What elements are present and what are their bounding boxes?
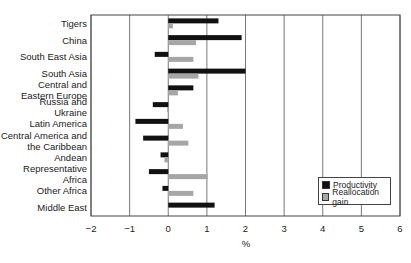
category-labels: TigersChinaSouth East AsiaSouth AsiaCent…: [0, 0, 87, 263]
category-label: Other Africa: [37, 185, 87, 196]
reallocation-bar: [168, 74, 198, 79]
productivity-bar: [143, 136, 168, 141]
reallocation-bar: [167, 107, 168, 112]
x-tick-label: 4: [320, 223, 325, 234]
productivity-bar: [168, 85, 193, 90]
category-label: South East Asia: [20, 51, 87, 62]
legend: Productivity Reallocation gain: [318, 177, 391, 205]
x-tick-label: 3: [281, 223, 286, 234]
reallocation-bar: [168, 23, 173, 28]
productivity-swatch: [322, 181, 330, 189]
x-axis-label: %: [242, 238, 250, 249]
x-tick-label: −1: [124, 223, 135, 234]
category-label: China: [62, 35, 87, 46]
legend-label: Reallocation gain: [332, 187, 390, 207]
x-tick-label: 6: [397, 223, 402, 234]
category-label: Latin America: [29, 118, 87, 129]
reallocation-bar: [168, 40, 196, 45]
category-label: Tigers: [61, 18, 87, 29]
reallocation-bar: [168, 57, 193, 62]
reallocation-bar: [164, 157, 168, 162]
category-label: RepresentativeAfrica: [23, 163, 87, 185]
x-tick-label: 2: [243, 223, 248, 234]
productivity-bar: [168, 18, 218, 23]
category-label: Middle East: [37, 202, 87, 213]
category-label: South Asia: [42, 68, 87, 79]
x-tick-label: 0: [166, 223, 171, 234]
productivity-bar: [153, 102, 168, 107]
reallocation-bar: [168, 124, 183, 129]
reallocation-bar: [168, 141, 188, 146]
productivity-bar: [168, 69, 245, 74]
productivity-bar: [168, 35, 241, 40]
productivity-bar: [162, 186, 168, 191]
category-label: Russia andUkraine: [39, 96, 87, 118]
category-label: Central America andthe Caribbean: [1, 130, 87, 152]
productivity-bar: [168, 203, 214, 208]
x-tick-label: 1: [204, 223, 209, 234]
x-tick-label: −2: [86, 223, 97, 234]
productivity-bar: [149, 169, 168, 174]
productivity-bar: [161, 152, 169, 157]
category-label: Andean: [54, 152, 87, 163]
productivity-bar: [155, 52, 169, 57]
reallocation-bar: [168, 174, 207, 179]
x-tick-label: 5: [359, 223, 364, 234]
reallocation-swatch: [322, 193, 329, 201]
reallocation-bar: [168, 191, 193, 196]
reallocation-bar: [168, 208, 169, 213]
reallocation-bar: [168, 90, 178, 95]
legend-item-reallocation-gain: Reallocation gain: [319, 191, 390, 203]
productivity-bar: [135, 119, 168, 124]
